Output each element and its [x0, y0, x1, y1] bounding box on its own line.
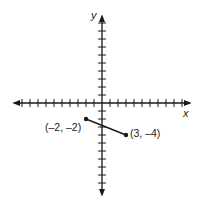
- line-segment: [86, 119, 126, 135]
- point-marker-2: [124, 133, 128, 137]
- point-label-1: (–2, –2): [45, 121, 81, 133]
- y-axis-label: y: [90, 9, 98, 21]
- point-label-2: (3, –4): [130, 127, 160, 139]
- x-axis-label: x: [182, 107, 189, 119]
- point-marker-1: [84, 117, 88, 121]
- coordinate-plane: x y (–2, –2) (3, –4): [0, 0, 206, 210]
